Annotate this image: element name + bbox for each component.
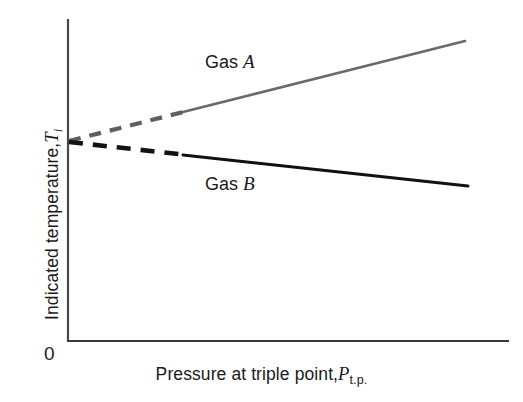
series-label-gas-a-prefix: Gas bbox=[205, 52, 243, 72]
chart-figure: Indicated temperature,Ti Pressure at tri… bbox=[0, 0, 523, 402]
series-label-gas-b-prefix: Gas bbox=[205, 174, 243, 194]
series-gas-b-dashed-segment bbox=[69, 142, 187, 155]
origin-tick-label: 0 bbox=[44, 343, 55, 365]
y-axis-title-symbol: T bbox=[41, 132, 62, 142]
y-axis-title: Indicated temperature,Ti bbox=[41, 20, 66, 320]
x-axis-title: Pressure at triple point,Pt.p. bbox=[0, 363, 523, 387]
y-axis-title-text: Indicated temperature, bbox=[42, 143, 62, 320]
series-label-gas-b-symbol: B bbox=[243, 173, 255, 194]
x-axis-title-symbol: P bbox=[338, 363, 349, 384]
series-label-gas-a-symbol: A bbox=[243, 51, 255, 72]
series-label-gas-a: Gas A bbox=[205, 51, 255, 73]
x-axis-title-text: Pressure at triple point, bbox=[156, 364, 338, 384]
x-axis-title-subscript: t.p. bbox=[349, 373, 367, 387]
y-axis-title-subscript: i bbox=[51, 129, 65, 133]
series-label-gas-b: Gas B bbox=[205, 173, 255, 195]
series-gas-a-dashed-segment bbox=[69, 111, 187, 141]
plot-area bbox=[0, 0, 523, 402]
